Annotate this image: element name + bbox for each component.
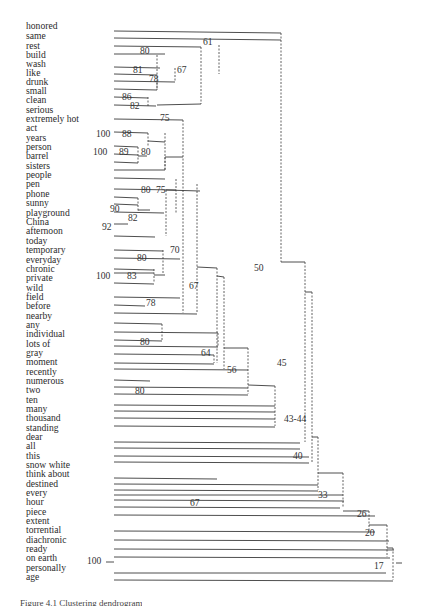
dendrogram-figure: honoredsamerestbuildwashlikedrunksmallcl… <box>0 0 424 606</box>
branch-line <box>114 462 309 463</box>
branch-line <box>114 418 275 419</box>
branch-line <box>114 313 197 314</box>
branch-line <box>114 332 218 333</box>
node-support-value: 92 <box>102 222 112 232</box>
branch-line <box>114 38 281 40</box>
node-support-value: 100 <box>96 271 110 281</box>
branch-line <box>114 557 390 558</box>
node-support-value: 75 <box>156 185 166 195</box>
branch-line <box>114 354 214 355</box>
node-support-value: 56 <box>227 365 237 375</box>
branch-line <box>114 411 275 412</box>
branch-line <box>114 363 214 364</box>
node-support-value: 80 <box>140 46 150 56</box>
node-support-value: 80 <box>135 386 145 396</box>
branch-line <box>114 456 309 457</box>
node-support-value: 61 <box>203 37 213 47</box>
node-support-value: 64 <box>201 348 211 358</box>
node-support-value: 67 <box>190 498 200 508</box>
branch-line <box>114 531 375 532</box>
figure-caption: Figure 4.1 Clustering dendrogram <box>20 598 142 606</box>
node-support-value: 33 <box>318 490 328 500</box>
node-support-value: 78 <box>149 74 159 84</box>
branch-line <box>114 484 318 485</box>
node-support-value: 45 <box>277 358 287 368</box>
node-support-value: 17 <box>374 561 384 571</box>
branch-line <box>114 442 300 443</box>
branch-line <box>114 380 150 381</box>
node-support-value: 90 <box>110 204 120 214</box>
node-support-value: 67 <box>189 281 199 291</box>
branch-line <box>157 104 201 105</box>
node-support-value: 40 <box>293 451 303 461</box>
node-support-value: 20 <box>365 528 375 538</box>
branch-line <box>114 178 165 179</box>
node-support-value: 70 <box>170 245 180 255</box>
node-support-value: 81 <box>133 65 143 75</box>
branch-line <box>114 549 394 550</box>
leaf-label: age <box>26 572 39 582</box>
node-support-value: 78 <box>146 298 156 308</box>
branch-line <box>114 323 162 324</box>
branch-line <box>114 405 275 406</box>
branch-line <box>114 500 344 501</box>
node-support-value: 26 <box>357 509 367 519</box>
node-support-value: 100 <box>87 556 101 566</box>
branch-line <box>114 515 375 516</box>
branch-line <box>114 540 389 541</box>
branch-line <box>114 283 154 284</box>
node-support-value: 80 <box>140 337 150 347</box>
branch-line <box>114 212 164 213</box>
branch-line <box>114 89 157 90</box>
branch-line <box>114 250 163 251</box>
node-support-value: 80 <box>137 253 147 263</box>
node-support-value: 80 <box>141 185 151 195</box>
node-support-value: 82 <box>130 101 140 111</box>
node-support-value: 80 <box>141 147 151 157</box>
branch-line <box>197 267 217 268</box>
branch-line <box>114 426 275 427</box>
node-support-value: 83 <box>127 271 137 281</box>
branch-line <box>217 276 224 277</box>
node-support-value: 43-44 <box>284 414 306 424</box>
node-support-value: 75 <box>160 113 170 123</box>
branch-line <box>114 478 217 479</box>
branch-line <box>114 340 162 341</box>
branch-line <box>248 385 275 386</box>
branch-line <box>114 448 300 449</box>
node-support-value: 100 <box>93 147 107 157</box>
branch-line <box>114 236 155 237</box>
branch-line <box>114 162 138 163</box>
branch-line <box>114 119 183 120</box>
branch-line <box>114 258 180 259</box>
node-support-value: 82 <box>128 213 138 223</box>
branch-line <box>114 580 393 581</box>
node-support-value: 50 <box>254 263 264 273</box>
branch-line <box>114 507 340 508</box>
branch-line <box>114 46 201 47</box>
branch-line <box>114 197 138 198</box>
node-support-value: 89 <box>119 147 129 157</box>
node-support-value: 88 <box>122 129 132 139</box>
branch-line <box>114 31 281 33</box>
node-support-value: 100 <box>96 129 110 139</box>
branch-line <box>114 81 175 82</box>
node-support-value: 67 <box>177 65 187 75</box>
branch-line <box>114 305 145 306</box>
branch-line <box>114 490 318 491</box>
branch-line <box>148 141 165 142</box>
